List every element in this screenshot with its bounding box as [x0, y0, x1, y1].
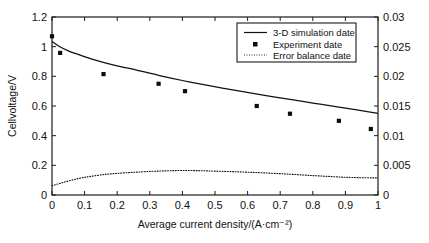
experiment-point-1 — [58, 51, 62, 55]
x-tick-label-8: 0.8 — [305, 199, 320, 211]
x-axis-title: Average current density/(A·cm⁻²) — [138, 218, 293, 230]
experiment-point-8 — [369, 127, 373, 131]
error-balance-curve — [52, 171, 378, 186]
y-left-tick-label-1: 0.2 — [32, 159, 47, 171]
y-left-tick-label-4: 0.8 — [32, 70, 47, 82]
y-right-tick-label-2: 0.01 — [383, 130, 404, 142]
y-left-tick-label-3: 0.6 — [32, 100, 47, 112]
experiment-point-7 — [337, 119, 341, 123]
x-tick-label-7: 0.7 — [273, 199, 288, 211]
experiment-point-4 — [183, 89, 187, 93]
y-left-tick-label-0: 0 — [41, 189, 47, 201]
chart-canvas: 00.10.20.30.40.50.60.70.80.91 00.20.40.6… — [0, 0, 429, 243]
experiment-point-0 — [50, 34, 54, 38]
x-tick-label-4: 0.4 — [175, 199, 190, 211]
x-tick-label-10: 1 — [375, 199, 381, 211]
y-right-tick-label-1: 0.005 — [383, 159, 411, 171]
x-tick-label-5: 0.5 — [207, 199, 222, 211]
x-axis-tick-labels: 00.10.20.30.40.50.60.70.80.91 — [49, 199, 381, 211]
figure-container: 00.10.20.30.40.50.60.70.80.91 00.20.40.6… — [0, 0, 429, 243]
y-left-tick-label-2: 0.4 — [32, 130, 47, 142]
legend: 3-D simulation date Experiment date Erro… — [237, 23, 356, 62]
experiment-point-6 — [288, 112, 292, 116]
y-right-tick-label-6: 0.03 — [383, 11, 404, 23]
y-axis-left-tick-labels: 00.20.40.60.811.2 — [32, 11, 47, 201]
y-right-tick-label-5: 0.025 — [383, 41, 411, 53]
x-tick-label-2: 0.2 — [110, 199, 125, 211]
x-tick-label-9: 0.9 — [338, 199, 353, 211]
y-axis-title: Cellvoltage/V — [6, 75, 18, 137]
experiment-point-2 — [101, 72, 105, 76]
y-right-tick-label-3: 0.015 — [383, 100, 411, 112]
x-tick-label-3: 0.3 — [142, 199, 157, 211]
x-tick-label-0: 0 — [49, 199, 55, 211]
y-right-tick-label-0: 0 — [383, 189, 389, 201]
experiment-point-3 — [157, 82, 161, 86]
y-right-tick-label-4: 0.02 — [383, 70, 404, 82]
y-axis-right-tick-labels: 00.0050.010.0150.020.0250.03 — [383, 11, 411, 201]
y-left-tick-label-5: 1 — [41, 41, 47, 53]
legend-item-label-0: 3-D simulation date — [273, 27, 355, 38]
y-left-tick-label-6: 1.2 — [32, 11, 47, 23]
x-tick-label-1: 0.1 — [77, 199, 92, 211]
legend-item-label-2: Error balance date — [273, 50, 351, 61]
legend-item-label-1: Experiment date — [273, 39, 342, 50]
legend-square-sample-icon — [253, 42, 258, 47]
x-tick-label-6: 0.6 — [240, 199, 255, 211]
experiment-point-5 — [255, 104, 259, 108]
